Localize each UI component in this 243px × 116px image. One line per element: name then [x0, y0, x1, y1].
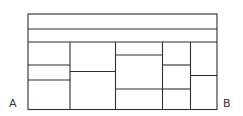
partition-diagram [0, 0, 243, 116]
label-b: B [223, 98, 231, 109]
label-a: A [9, 98, 17, 109]
outer-box [28, 14, 217, 110]
